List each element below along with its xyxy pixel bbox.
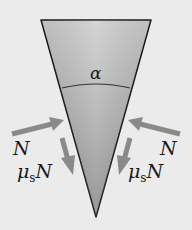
left-normal-label: N — [12, 137, 31, 159]
right-normal-arrow-icon — [128, 117, 180, 134]
left-friction-arrow-icon — [61, 138, 75, 175]
left-friction-label: μsN — [17, 160, 54, 185]
wedge-diagram: α N μsN N μsN — [0, 0, 192, 230]
right-normal-label: N — [159, 137, 178, 159]
right-friction-label: μsN — [128, 160, 165, 185]
angle-label-alpha: α — [90, 63, 102, 83]
left-normal-arrow-icon — [12, 117, 64, 134]
